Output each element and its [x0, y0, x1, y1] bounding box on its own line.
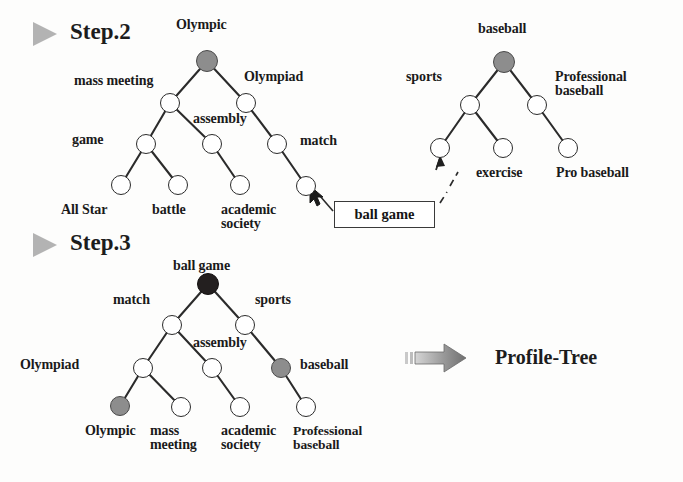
label-match: match	[113, 293, 150, 307]
step2-title: Step.2	[70, 19, 131, 45]
label-match: match	[300, 134, 337, 148]
tree-node-battle[interactable]	[168, 175, 188, 195]
diagram-canvas: Step.2 Step.3 Olympicmass meetingOlympia…	[0, 0, 683, 482]
tree-node-exercise[interactable]	[493, 138, 513, 158]
label-professional-baseball: Professional baseball	[555, 70, 627, 99]
label-baseball: baseball	[300, 358, 348, 372]
label-mass-meeting: mass meeting	[74, 74, 153, 88]
tree-node-assembly[interactable]	[202, 134, 222, 154]
tree-node-academic-society[interactable]	[230, 175, 250, 195]
tree-node-ball-game-target[interactable]	[296, 176, 316, 196]
tree-node-game[interactable]	[136, 134, 156, 154]
label-academic-society: academic society	[221, 424, 276, 453]
tree-node-sports[interactable]	[460, 95, 480, 115]
label-pro-baseball: Pro baseball	[556, 166, 629, 180]
label-assembly: assembly	[193, 112, 247, 126]
callout-arrow-shaft	[436, 158, 440, 170]
callout-line-right-b	[450, 172, 458, 186]
play-triangle-icon-step3	[33, 233, 57, 257]
tree-node-academic-society[interactable]	[230, 397, 250, 417]
tree-node-assembly[interactable]	[202, 358, 222, 378]
label-olympic: Olympic	[176, 18, 227, 32]
label-assembly: assembly	[193, 336, 247, 350]
label-baseball: baseball	[478, 22, 526, 36]
right-arrow-icon	[404, 341, 468, 375]
label-sports: sports	[406, 70, 442, 84]
label-olympiad: Olympiad	[20, 358, 79, 372]
ball-game-callout-box: ball game	[334, 201, 435, 228]
step3-title: Step.3	[70, 230, 131, 256]
label-mass-meeting: mass meeting	[150, 424, 197, 453]
label-all-star: All Star	[61, 203, 107, 217]
tree-node-professional-baseball[interactable]	[527, 95, 547, 115]
tree-node-ball-game-root[interactable]	[197, 273, 219, 295]
tree-node-olympiad[interactable]	[133, 358, 153, 378]
tree-node-match[interactable]	[267, 134, 287, 154]
callout-line-right-a	[440, 192, 447, 203]
tree-node-olympic[interactable]	[110, 396, 130, 416]
tree-node-mass-meeting[interactable]	[171, 397, 191, 417]
label-game: game	[72, 133, 103, 147]
label-battle: battle	[152, 203, 186, 217]
tree-node-olympic-root[interactable]	[196, 50, 218, 72]
tree-node-ball-game-source[interactable]	[430, 138, 450, 158]
tree-node-match[interactable]	[162, 315, 182, 335]
label-sports: sports	[255, 293, 291, 307]
tree-node-all-star[interactable]	[111, 175, 131, 195]
play-triangle-icon-step2	[33, 22, 57, 46]
tree-node-professional-baseball[interactable]	[296, 397, 316, 417]
label-olympiad: Olympiad	[244, 70, 303, 84]
label-academic-society: academic society	[221, 203, 276, 232]
label-exercise: exercise	[476, 166, 522, 180]
tree-node-mass-meeting[interactable]	[160, 93, 180, 113]
callout-line-left	[320, 196, 333, 211]
label-professional-baseball: Professional baseball	[293, 424, 362, 452]
tree-node-baseball[interactable]	[271, 358, 291, 378]
tree-node-olympiad[interactable]	[236, 93, 256, 113]
tree-node-baseball-root[interactable]	[493, 51, 515, 73]
tree-node-pro-baseball[interactable]	[558, 138, 578, 158]
label-ball-game: ball game	[173, 259, 230, 273]
tree-node-sports[interactable]	[235, 315, 255, 335]
label-olympic: Olympic	[85, 424, 136, 438]
profile-tree-result-label: Profile-Tree	[495, 346, 597, 369]
